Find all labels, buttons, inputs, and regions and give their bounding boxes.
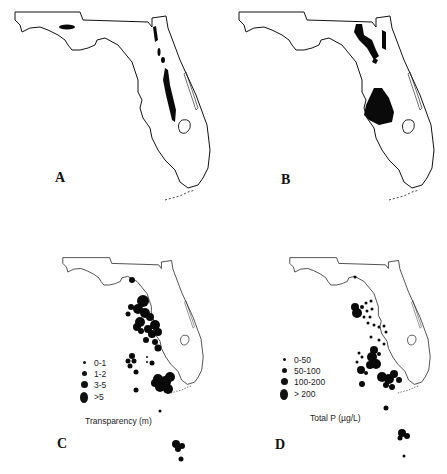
legend-dot-icon xyxy=(82,371,87,376)
panel-a: A xyxy=(0,0,224,237)
panel-d: 0-50 50-100 100-200 > 200 Total P (µg/L)… xyxy=(224,237,447,474)
legend-dot-icon xyxy=(281,378,288,385)
panel-label-a: A xyxy=(55,170,65,186)
lake-region xyxy=(59,25,75,30)
florida-map-b xyxy=(224,0,447,237)
legend-dot-icon xyxy=(282,368,287,373)
legend-dot-icon xyxy=(283,358,286,361)
legend-dot-icon xyxy=(80,392,88,403)
panel-label-b: B xyxy=(281,172,290,188)
ridge-region xyxy=(163,68,176,122)
panel-label-c: C xyxy=(57,436,67,452)
phosphate-region xyxy=(364,88,394,125)
panel-label-d: D xyxy=(275,437,285,453)
florida-map-a xyxy=(0,0,224,237)
panel-b: B xyxy=(224,0,447,237)
panel-c: 0-1 1-2 3-5 >5 Transparency (m) C xyxy=(0,237,224,474)
lake-data-points xyxy=(351,276,410,458)
lake-region xyxy=(354,24,379,60)
legend-transparency: 0-1 1-2 3-5 >5 xyxy=(80,357,106,404)
legend-dot-icon xyxy=(81,381,88,388)
florida-map-c xyxy=(0,237,224,474)
legend-total-p: 0-50 50-100 100-200 > 200 xyxy=(280,354,325,401)
legend-title: Transparency (m) xyxy=(85,416,152,426)
legend-dot-icon xyxy=(280,389,288,400)
florida-map-d xyxy=(224,237,447,474)
legend-title: Total P (µg/L) xyxy=(310,413,361,423)
legend-dot-icon xyxy=(83,361,86,364)
